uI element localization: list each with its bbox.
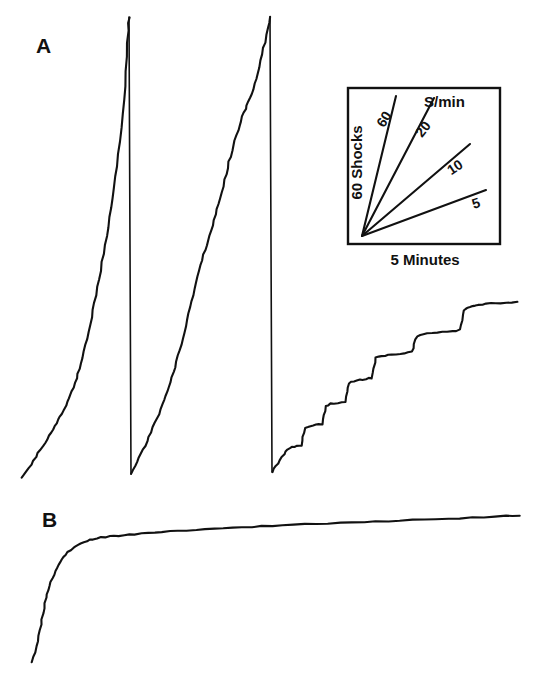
trace-a-segment-2	[131, 17, 270, 474]
panel-a-traces	[22, 17, 518, 478]
trace-a-segment-1	[22, 18, 130, 478]
panel-label-b: B	[42, 509, 58, 530]
trace-b	[32, 516, 520, 663]
inset-title: S/min	[424, 94, 465, 109]
inset-y-axis-label: 60 Shocks	[349, 113, 364, 213]
pen-reset-line-2	[270, 17, 272, 472]
cumulative-record-figure: A B S/min 60 Shocks 5 Minutes 60 20 10 5	[0, 0, 536, 697]
panel-label-a: A	[36, 35, 52, 56]
panel-b-traces	[32, 516, 520, 663]
inset-rate-key	[348, 88, 500, 244]
trace-a-segment-3	[273, 302, 518, 472]
pen-reset-line-1	[129, 17, 131, 474]
inset-ray-5	[362, 190, 486, 236]
inset-x-axis-label: 5 Minutes	[348, 252, 502, 267]
